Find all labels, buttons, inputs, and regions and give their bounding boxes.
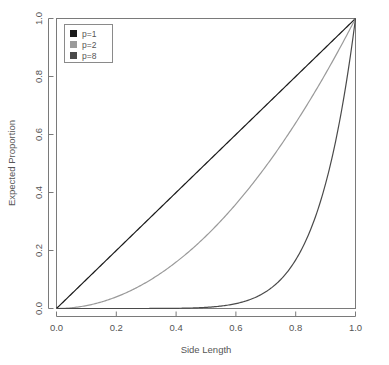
y-tick-label: 0.0: [33, 302, 44, 315]
x-tick-label: 0.0: [50, 322, 63, 333]
x-axis-title: Side Length: [181, 344, 232, 355]
legend-label-p8: p=8: [82, 51, 97, 61]
y-tick-label: 0.8: [33, 70, 44, 83]
y-tick-label: 0.6: [33, 128, 44, 141]
y-axis-tick-labels: 0.0 0.2 0.4 0.6 0.8 1.0: [33, 12, 44, 315]
x-tick-label: 0.4: [169, 322, 182, 333]
legend-label-p2: p=2: [82, 40, 97, 50]
figure-canvas: 0.0 0.2 0.4 0.6 0.8 1.0 0.0 0.2 0.4 0.6 …: [0, 0, 389, 365]
legend-swatch-p2: [70, 41, 77, 48]
x-tick-label: 0.6: [229, 322, 242, 333]
x-tick-label: 1.0: [349, 322, 362, 333]
x-tick-label: 0.8: [289, 322, 302, 333]
legend-swatch-p8: [70, 52, 77, 59]
legend-swatch-p1: [70, 30, 77, 37]
x-axis-tick-labels: 0.0 0.2 0.4 0.6 0.8 1.0: [50, 322, 362, 333]
x-tick-label: 0.2: [110, 322, 123, 333]
legend-label-p1: p=1: [82, 29, 97, 39]
y-tick-label: 0.4: [33, 186, 44, 199]
y-tick-label: 0.2: [33, 244, 44, 257]
x-axis-ticks: [57, 312, 356, 317]
legend: p=1 p=2 p=8: [65, 25, 113, 63]
y-axis-ticks: [49, 19, 54, 309]
y-axis-title: Expected Proportion: [6, 120, 17, 206]
y-tick-label: 1.0: [33, 12, 44, 25]
power-curve-chart: 0.0 0.2 0.4 0.6 0.8 1.0 0.0 0.2 0.4 0.6 …: [0, 0, 389, 365]
